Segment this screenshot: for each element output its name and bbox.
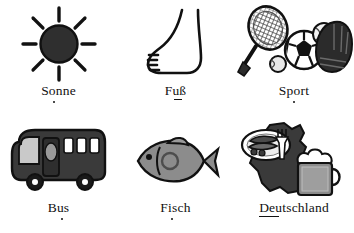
vocabulary-card-bus[interactable]: Bus <box>0 117 117 233</box>
vocabulary-card-sonne[interactable]: Sonne <box>0 0 117 117</box>
stress-underline-icon <box>259 216 279 217</box>
tennis-ball <box>270 56 286 72</box>
side-windows <box>64 138 99 153</box>
stress-underline-icon <box>174 99 182 100</box>
fish-fin <box>168 138 188 145</box>
germany-icon <box>234 117 354 201</box>
foot-icon <box>117 0 234 84</box>
vocabulary-card-sport[interactable]: Sport <box>234 0 354 117</box>
bus-icon <box>0 117 117 201</box>
vocabulary-grid: Sonne Fuß <box>0 0 354 233</box>
label-text: Deutschland <box>259 200 329 215</box>
vocabulary-card-fisch[interactable]: Fisch <box>117 117 234 233</box>
fish-icon <box>117 117 234 201</box>
vocabulary-card-deutschland[interactable]: Deutschland <box>234 117 354 233</box>
label-text: Sport <box>279 83 309 98</box>
fish-eye <box>146 154 152 160</box>
label-text: Bus <box>48 200 70 215</box>
label-text: Fuß <box>165 83 187 98</box>
baseball-glove <box>316 22 352 72</box>
vocabulary-card-fuss[interactable]: Fuß <box>117 0 234 117</box>
beer-mug <box>298 150 340 196</box>
card-label-bus: Bus <box>48 201 70 215</box>
fish-tail <box>204 149 218 175</box>
card-label-deutschland: Deutschland <box>259 201 329 215</box>
card-label-fisch: Fisch <box>160 201 190 215</box>
windshield <box>19 137 39 164</box>
card-label-sport: Sport <box>279 84 309 98</box>
vocabulary-sheet: Sonne Fuß <box>0 0 354 233</box>
label-text: Fisch <box>160 200 190 215</box>
sun-icon <box>0 0 117 84</box>
sport-icon <box>234 0 354 84</box>
card-label-fuss: Fuß <box>165 84 187 98</box>
label-text: Sonne <box>41 83 76 98</box>
card-label-sonne: Sonne <box>41 84 76 98</box>
